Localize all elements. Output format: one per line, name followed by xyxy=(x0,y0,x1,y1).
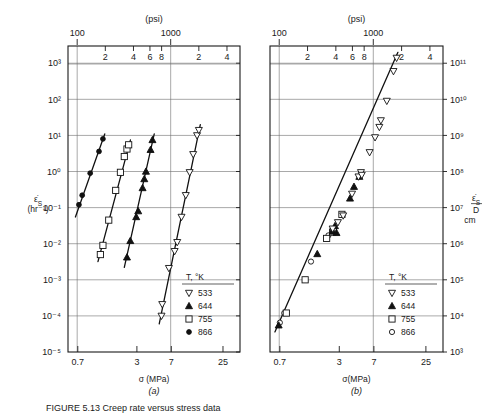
data-point-triangle-down-open xyxy=(158,313,165,319)
legend-title: T, °K xyxy=(389,272,407,282)
data-point-triangle-down-open xyxy=(376,124,383,130)
top-tick-label: 2 xyxy=(305,52,310,62)
y-tick-label: 10⁻² xyxy=(43,239,61,249)
legend-item-755: 755 xyxy=(186,314,213,324)
data-point-circle-open xyxy=(308,259,313,264)
y-tick-label: 10³ xyxy=(48,58,61,68)
data-point-circle-filled xyxy=(80,193,85,198)
data-point-square-open xyxy=(389,316,395,322)
series-644 xyxy=(275,173,363,328)
top-tick-label: 2 xyxy=(399,52,404,62)
top-tick-label: 2 xyxy=(103,52,108,62)
top-tick-label: 6 xyxy=(350,52,355,62)
x-tick-label: 0.7 xyxy=(274,357,287,367)
figure-caption: FIGURE 5.13 Creep rate versus stress dat… xyxy=(46,403,221,413)
data-point-triangle-up-filled xyxy=(142,168,149,174)
data-point-circle-filled xyxy=(97,149,102,154)
data-point-square-open xyxy=(113,187,119,193)
legend-item-label: 866 xyxy=(198,327,212,337)
x-tick-label: 25 xyxy=(218,357,228,367)
legend-item-label: 644 xyxy=(198,301,212,311)
data-point-triangle-down-open xyxy=(383,98,390,104)
x-tick-label: 3 xyxy=(337,357,342,367)
x-tick-label: 0.7 xyxy=(72,357,85,367)
y-tick-label: 10⁻⁴ xyxy=(42,311,61,321)
data-point-triangle-down-open xyxy=(389,290,396,296)
data-point-square-open xyxy=(106,217,112,223)
y-tick-label: 10¹¹ xyxy=(450,58,466,68)
data-point-square-open xyxy=(117,169,123,175)
data-point-triangle-down-open xyxy=(190,152,197,158)
data-point-triangle-down-open xyxy=(165,265,172,271)
data-point-square-open xyxy=(100,242,106,248)
data-point-square-open xyxy=(302,277,308,283)
data-point-triangle-up-filled xyxy=(123,254,130,260)
data-point-triangle-down-open xyxy=(390,69,397,75)
y-tick-label: 10² xyxy=(48,95,61,105)
data-point-triangle-up-filled xyxy=(139,184,146,190)
top-tick-label: 6 xyxy=(147,52,152,62)
y-tick-label: 10⁰ xyxy=(47,167,61,177)
legend-item-label: 644 xyxy=(401,301,415,311)
data-point-square-open xyxy=(186,316,192,322)
x-axis-title: σ (MPa) xyxy=(139,374,170,384)
data-point-triangle-up-filled xyxy=(147,146,154,152)
data-point-triangle-up-filled xyxy=(314,250,321,256)
y-tick-label: 10¹⁰ xyxy=(450,95,467,105)
data-point-circle-open xyxy=(389,329,394,334)
top-tick-label: 4 xyxy=(224,52,229,62)
data-point-triangle-up-filled xyxy=(149,136,156,142)
data-point-triangle-down-open xyxy=(174,240,181,246)
top-tick-label: 1000 xyxy=(161,28,181,38)
top-tick-label: 4 xyxy=(131,52,136,62)
legend-item-533: 533 xyxy=(389,288,416,298)
top-tick-label: 100 xyxy=(272,28,287,38)
x-tick-label: 7 xyxy=(371,357,376,367)
y-tick-label: 10³ xyxy=(450,347,463,357)
figure-container: 10³10²10¹10⁰10⁻¹10⁻²10⁻³10⁻⁴10⁻⁵10024681… xyxy=(0,0,486,414)
top-axis-unit-label: (psi) xyxy=(145,14,163,24)
data-point-triangle-down-open xyxy=(366,150,373,156)
x-axis-title: σ(MPa) xyxy=(342,374,371,384)
y-axis-denominator: D xyxy=(473,205,479,215)
data-point-circle-filled xyxy=(101,137,106,142)
data-point-triangle-down-open xyxy=(159,302,166,308)
data-point-triangle-down-open xyxy=(194,133,201,139)
panel-letter: (b) xyxy=(351,386,362,396)
legend-item-label: 533 xyxy=(401,288,415,298)
legend-item-644: 644 xyxy=(186,301,213,311)
data-point-square-open xyxy=(324,235,330,241)
data-point-triangle-up-filled xyxy=(350,183,357,189)
legend-item-866: 866 xyxy=(389,327,415,337)
plot-frame xyxy=(270,46,443,352)
top-tick-label: 8 xyxy=(159,52,164,62)
data-point-triangle-down-open xyxy=(377,118,384,124)
data-point-triangle-up-filled xyxy=(389,302,396,308)
plot-frame xyxy=(68,46,240,352)
y-tick-label: 10⁵ xyxy=(450,275,464,285)
legend-item-label: 755 xyxy=(401,314,415,324)
data-point-triangle-up-filled xyxy=(141,175,148,181)
panel-b: 10¹¹10¹⁰10⁹10⁸10⁷10⁶10⁵10⁴10³10024681000… xyxy=(270,14,482,396)
legend-item-755: 755 xyxy=(389,314,416,324)
y-axis-unit: (hr⁻¹) xyxy=(27,204,48,214)
x-tick-label: 7 xyxy=(169,357,174,367)
panel-a: 10³10²10¹10⁰10⁻¹10⁻²10⁻³10⁻⁴10⁻⁵10024681… xyxy=(27,14,240,396)
y-tick-label: 10⁷ xyxy=(450,203,463,213)
top-tick-label: 1000 xyxy=(363,28,383,38)
y-tick-label: 10⁴ xyxy=(450,311,464,321)
figure-caption-text: FIGURE 5.13 Creep rate versus stress dat… xyxy=(46,403,221,413)
creep-rate-figure: 10³10²10¹10⁰10⁻¹10⁻²10⁻³10⁻⁴10⁻⁵10024681… xyxy=(0,0,486,414)
legend-item-label: 866 xyxy=(401,327,415,337)
y-tick-label: 10⁸ xyxy=(450,167,464,177)
data-point-circle-filled xyxy=(88,171,93,176)
data-point-triangle-up-filled xyxy=(186,302,193,308)
y-tick-label: 10⁻⁵ xyxy=(42,347,61,357)
data-point-triangle-up-filled xyxy=(135,208,142,214)
fit-line-644 xyxy=(124,134,154,268)
top-tick-label: 2 xyxy=(196,52,201,62)
y-tick-label: 10⁹ xyxy=(450,131,464,141)
data-point-triangle-up-filled xyxy=(127,237,134,243)
series-866 xyxy=(77,137,106,208)
legend-item-label: 533 xyxy=(198,288,212,298)
